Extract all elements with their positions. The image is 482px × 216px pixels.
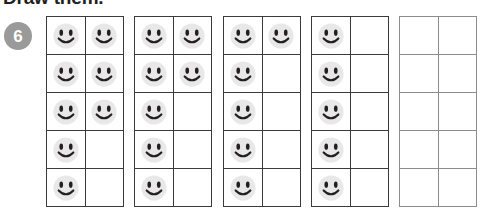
frame-cell-empty[interactable] — [400, 169, 439, 207]
frame-cell-empty[interactable] — [174, 169, 213, 207]
smiley-face-icon — [52, 60, 80, 88]
frame-cell-empty[interactable] — [400, 55, 439, 93]
ten-frame-1[interactable] — [46, 16, 124, 207]
frame-cell-filled[interactable] — [47, 17, 86, 55]
frame-cell-empty[interactable] — [174, 131, 213, 169]
smiley-face-icon — [140, 174, 168, 202]
ten-frame-5[interactable] — [399, 16, 477, 207]
empty-cell — [267, 174, 295, 202]
frame-cell-filled[interactable] — [312, 17, 351, 55]
ten-frame-3[interactable] — [223, 16, 301, 207]
frame-cell-filled[interactable] — [174, 17, 213, 55]
smiley-face-icon — [178, 60, 206, 88]
frame-cell-empty[interactable] — [351, 17, 390, 55]
smiley-face-icon — [52, 174, 80, 202]
frame-cell-empty[interactable] — [439, 17, 478, 55]
frame-cell-filled[interactable] — [86, 17, 125, 55]
frame-cell-filled[interactable] — [312, 131, 351, 169]
frame-cell-filled[interactable] — [312, 93, 351, 131]
empty-cell — [90, 136, 118, 164]
frame-cell-filled[interactable] — [135, 93, 174, 131]
frame-cell-empty[interactable] — [400, 17, 439, 55]
frame-cell-empty[interactable] — [263, 131, 302, 169]
frame-cell-filled[interactable] — [224, 169, 263, 207]
empty-cell — [405, 174, 433, 202]
frame-cell-empty[interactable] — [174, 93, 213, 131]
frame-cell-filled[interactable] — [224, 17, 263, 55]
frame-cell-empty[interactable] — [400, 131, 439, 169]
frame-cell-filled[interactable] — [174, 55, 213, 93]
frame-cell-filled[interactable] — [135, 55, 174, 93]
smiley-face-icon — [52, 98, 80, 126]
empty-cell — [355, 136, 383, 164]
smiley-face-icon — [229, 60, 257, 88]
smiley-face-icon — [317, 22, 345, 50]
empty-cell — [267, 60, 295, 88]
smiley-face-icon — [267, 22, 295, 50]
empty-cell — [355, 98, 383, 126]
frame-cell-filled[interactable] — [263, 17, 302, 55]
frame-cell-empty[interactable] — [439, 55, 478, 93]
frame-cell-empty[interactable] — [439, 169, 478, 207]
frame-cell-empty[interactable] — [439, 93, 478, 131]
smiley-face-icon — [178, 22, 206, 50]
frame-cell-empty[interactable] — [263, 93, 302, 131]
frame-cell-empty[interactable] — [400, 93, 439, 131]
frame-cell-filled[interactable] — [224, 55, 263, 93]
empty-cell — [443, 22, 471, 50]
empty-cell — [443, 174, 471, 202]
frame-cell-filled[interactable] — [47, 55, 86, 93]
smiley-face-icon — [229, 22, 257, 50]
frame-cell-filled[interactable] — [312, 55, 351, 93]
smiley-face-icon — [317, 60, 345, 88]
smiley-face-icon — [317, 98, 345, 126]
frame-cell-empty[interactable] — [351, 169, 390, 207]
frame-cell-filled[interactable] — [47, 93, 86, 131]
frame-cell-empty[interactable] — [439, 131, 478, 169]
smiley-face-icon — [90, 98, 118, 126]
frame-cell-filled[interactable] — [224, 131, 263, 169]
empty-cell — [178, 174, 206, 202]
ten-frame-4[interactable] — [311, 16, 389, 207]
smiley-face-icon — [317, 174, 345, 202]
empty-cell — [405, 136, 433, 164]
frame-cell-empty[interactable] — [351, 55, 390, 93]
empty-cell — [355, 60, 383, 88]
frame-cell-filled[interactable] — [47, 131, 86, 169]
ten-frames-container — [0, 0, 482, 216]
empty-cell — [443, 98, 471, 126]
frame-cell-empty[interactable] — [351, 131, 390, 169]
smiley-face-icon — [52, 22, 80, 50]
frame-cell-filled[interactable] — [312, 169, 351, 207]
smiley-face-icon — [90, 22, 118, 50]
smiley-face-icon — [140, 60, 168, 88]
frame-cell-empty[interactable] — [351, 93, 390, 131]
frame-cell-empty[interactable] — [263, 55, 302, 93]
frame-cell-filled[interactable] — [86, 93, 125, 131]
smiley-face-icon — [140, 22, 168, 50]
frame-cell-filled[interactable] — [47, 169, 86, 207]
empty-cell — [443, 60, 471, 88]
frame-cell-filled[interactable] — [224, 93, 263, 131]
empty-cell — [178, 136, 206, 164]
empty-cell — [355, 174, 383, 202]
empty-cell — [405, 98, 433, 126]
smiley-face-icon — [140, 98, 168, 126]
empty-cell — [355, 22, 383, 50]
frame-cell-filled[interactable] — [135, 17, 174, 55]
empty-cell — [90, 174, 118, 202]
empty-cell — [267, 136, 295, 164]
frame-cell-empty[interactable] — [86, 169, 125, 207]
smiley-face-icon — [317, 136, 345, 164]
empty-cell — [267, 98, 295, 126]
frame-cell-empty[interactable] — [263, 169, 302, 207]
frame-cell-empty[interactable] — [86, 131, 125, 169]
frame-cell-filled[interactable] — [135, 131, 174, 169]
smiley-face-icon — [229, 98, 257, 126]
frame-cell-filled[interactable] — [86, 55, 125, 93]
frame-cell-filled[interactable] — [135, 169, 174, 207]
empty-cell — [405, 60, 433, 88]
smiley-face-icon — [140, 136, 168, 164]
ten-frame-2[interactable] — [134, 16, 212, 207]
empty-cell — [178, 98, 206, 126]
